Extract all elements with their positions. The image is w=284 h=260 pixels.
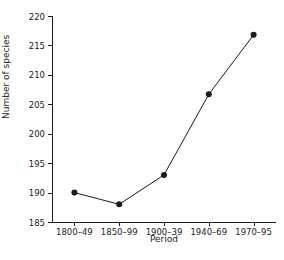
data-point [161,172,167,178]
chart-figure: 185190195200205210215220 1800–491850–991… [0,0,284,260]
x-axis-tick [119,222,120,226]
data-point [71,190,77,196]
y-axis-tick-label: 185 [29,218,45,227]
y-axis-tick-label: 215 [29,42,45,51]
y-axis-tick-label: 210 [29,71,45,80]
data-point [251,32,257,38]
y-axis-tick-label: 220 [29,12,45,21]
data-series [52,16,276,222]
x-axis-tick [209,222,210,226]
y-axis-title: Number of species [2,35,11,119]
series-line [74,35,253,205]
series-markers [71,32,256,208]
y-axis-tick-label: 195 [29,159,45,168]
y-axis-tick: 185 [48,222,52,223]
x-axis-tick [74,222,75,226]
x-axis-title: Period [52,235,276,244]
x-axis-tick [164,222,165,226]
y-axis-tick-label: 200 [29,130,45,139]
y-axis-tick-label: 190 [29,189,45,198]
data-point [206,91,212,97]
x-axis-tick [254,222,255,226]
data-point [116,201,122,207]
y-axis-tick-label: 205 [29,101,45,110]
plot-area: 185190195200205210215220 1800–491850–991… [52,16,276,222]
